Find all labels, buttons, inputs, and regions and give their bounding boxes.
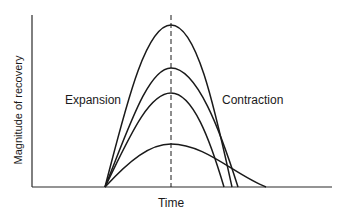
contraction-label: Contraction — [222, 93, 283, 107]
recovery-curve-highest — [105, 25, 232, 187]
recovery-curve-lowest — [105, 144, 266, 187]
y-axis-label: Magnitude of recovery — [12, 55, 24, 164]
recovery-diagram: Expansion Contraction Time Magnitude of … — [0, 0, 343, 216]
expansion-label: Expansion — [65, 93, 121, 107]
x-axis-label: Time — [158, 196, 185, 210]
